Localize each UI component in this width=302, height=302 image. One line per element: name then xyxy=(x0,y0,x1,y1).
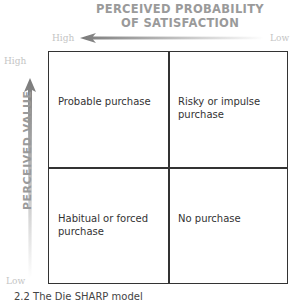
x-axis-low-label: Low xyxy=(270,33,289,43)
quadrant-bottom-right: No purchase xyxy=(178,212,241,225)
quadrant-bottom-left-line2: purchase xyxy=(58,225,148,238)
x-axis-title-line2: OF SATISFACTION xyxy=(60,16,300,30)
quadrant-top-right-line1: Risky or impulse xyxy=(178,95,260,108)
y-axis-high-label: High xyxy=(4,56,26,66)
quadrant-top-left: Probable purchase xyxy=(58,95,151,108)
y-axis-low-label: Low xyxy=(6,276,25,286)
x-axis-title: PERCEIVED PROBABILITY OF SATISFACTION xyxy=(60,2,300,30)
grid-horizontal-divider xyxy=(48,167,288,169)
quadrant-top-right: Risky or impulse purchase xyxy=(178,95,260,121)
quadrant-bottom-left: Habitual or forced purchase xyxy=(58,212,148,238)
x-axis-high-label: High xyxy=(52,33,74,43)
x-axis-title-line1: PERCEIVED PROBABILITY xyxy=(60,2,300,16)
figure-caption: 2.2 The Die SHARP model xyxy=(14,291,143,302)
y-axis-title: PERCEIVED VALUE xyxy=(21,90,34,210)
quadrant-bottom-right-label: No purchase xyxy=(178,213,241,224)
quadrant-top-left-label: Probable purchase xyxy=(58,96,151,107)
left-arrow-icon xyxy=(80,33,264,43)
quadrant-top-right-line2: purchase xyxy=(178,108,260,121)
quadrant-bottom-left-line1: Habitual or forced xyxy=(58,212,148,225)
